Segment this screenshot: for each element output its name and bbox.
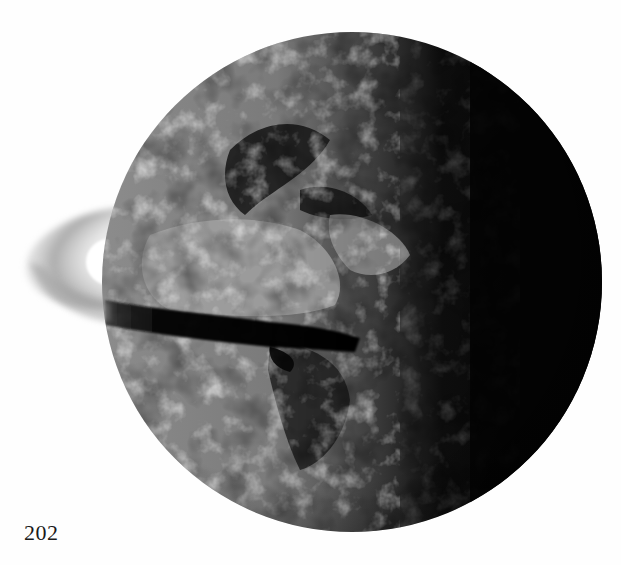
book-page: 202 — [0, 0, 621, 565]
cut-off-text-line — [200, 0, 450, 2]
earth-ring-illustration — [0, 0, 621, 565]
earth-globe — [100, 20, 610, 550]
page-number: 202 — [24, 520, 59, 546]
